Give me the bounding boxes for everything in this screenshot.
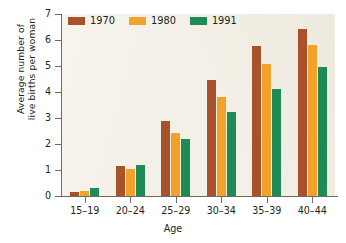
y-axis-title: Average number of live births per woman (9, 0, 43, 149)
x-axis-tick (312, 197, 313, 203)
y-axis-tick-label: 5 (11, 61, 51, 71)
bar-1991-15–19 (90, 188, 99, 196)
bar-1980-40–44 (308, 45, 317, 196)
legend-item-1970: 1970 (68, 16, 115, 26)
x-axis-tick (221, 197, 222, 203)
bar-1970-30–34 (207, 80, 216, 196)
legend-label-1980: 1980 (151, 16, 176, 26)
bar-1970-15–19 (70, 192, 79, 196)
bar-1970-25–29 (161, 121, 170, 196)
bar-1991-25–29 (181, 139, 190, 196)
bar-1980-25–29 (171, 133, 180, 196)
x-axis-line (61, 196, 338, 197)
y-axis-tick (55, 92, 61, 93)
bar-1980-20–24 (126, 169, 135, 196)
y-axis-tick (55, 40, 61, 41)
y-axis-tick-label: 4 (11, 87, 51, 97)
y-axis-tick-label: 3 (11, 113, 51, 123)
bars-layer (62, 14, 335, 196)
legend-label-1970: 1970 (90, 16, 115, 26)
y-axis-tick-label: 2 (11, 139, 51, 149)
legend-item-1991: 1991 (190, 16, 237, 26)
y-axis-tick (55, 66, 61, 67)
x-axis-tick (130, 197, 131, 203)
bar-1970-40–44 (298, 29, 307, 196)
legend-swatch-1970 (68, 17, 85, 25)
y-axis-tick (55, 144, 61, 145)
legend-label-1991: 1991 (212, 16, 237, 26)
y-axis-tick-label: 1 (11, 165, 51, 175)
x-axis-tick-label: 40–44 (282, 206, 342, 216)
legend: 197019801991 (68, 16, 237, 26)
bar-1980-35–39 (262, 64, 271, 196)
y-axis-tick (55, 118, 61, 119)
bar-1991-30–34 (227, 112, 236, 196)
bar-chart: Average number of live births per woman … (0, 0, 346, 243)
bar-1970-35–39 (252, 46, 261, 196)
y-axis-tick (55, 170, 61, 171)
bar-1970-20–24 (116, 166, 125, 196)
y-axis-tick-label: 7 (11, 9, 51, 19)
y-axis-tick-label: 6 (11, 35, 51, 45)
y-axis-tick-label: 0 (11, 191, 51, 201)
legend-swatch-1991 (190, 17, 207, 25)
bar-1991-40–44 (318, 67, 327, 196)
legend-swatch-1980 (129, 17, 146, 25)
bar-1991-35–39 (272, 89, 281, 196)
y-axis-tick (55, 14, 61, 15)
x-axis-tick (267, 197, 268, 203)
y-axis-tick (55, 196, 61, 197)
bar-1991-20–24 (136, 165, 145, 196)
bar-1980-15–19 (80, 191, 89, 196)
x-axis-title: Age (0, 224, 346, 234)
legend-item-1980: 1980 (129, 16, 176, 26)
bar-1980-30–34 (217, 97, 226, 196)
x-axis-tick (176, 197, 177, 203)
x-axis-tick (85, 197, 86, 203)
